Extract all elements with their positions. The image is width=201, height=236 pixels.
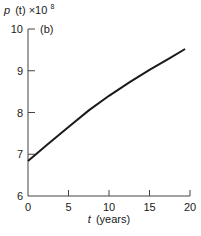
x-tick-label: 15 [143, 201, 155, 213]
y-tick-label: 9 [17, 65, 23, 77]
axes [28, 29, 190, 196]
x-tick-label: 10 [103, 201, 115, 213]
ticks: 67891005101520 [11, 23, 196, 213]
chart: p (t) ×10 8 (b) 67891005101520 t (years) [0, 0, 201, 236]
y-tick-label: 10 [11, 23, 23, 35]
panel-label: (b) [40, 23, 53, 35]
x-tick-label: 20 [184, 201, 196, 213]
axis-lines [28, 29, 190, 196]
x-tick-label: 5 [65, 201, 71, 213]
y-tick-label: 7 [17, 148, 23, 160]
y-axis-label: p (t) ×10 8 [3, 3, 54, 16]
y-tick-label: 8 [17, 107, 23, 119]
y-tick-label: 6 [17, 190, 23, 202]
data-line [28, 49, 185, 161]
x-tick-label: 0 [25, 201, 31, 213]
x-axis-label: t (years) [88, 213, 130, 225]
